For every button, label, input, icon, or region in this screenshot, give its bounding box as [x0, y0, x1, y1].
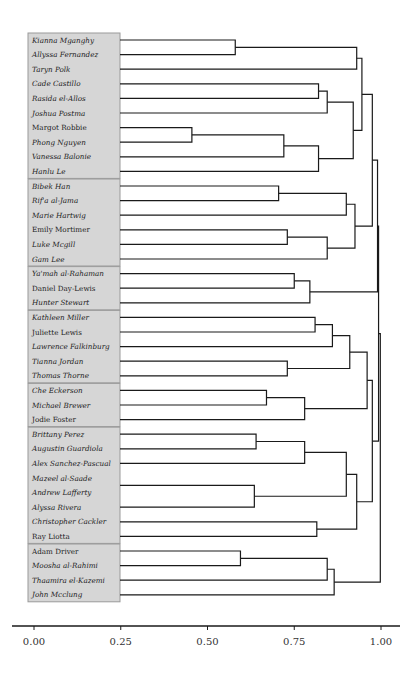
merge-link — [120, 317, 315, 332]
x-tick-label: 0.00 — [23, 636, 45, 647]
leaf-label: Vanessa Balonie — [32, 152, 91, 161]
merge-link — [120, 230, 287, 245]
leaf-label: Brittany Perez — [31, 430, 85, 439]
leaf-label: Moosha al-Rahimi — [31, 561, 98, 570]
leaf-label: Rasida el-Allos — [31, 94, 86, 103]
merge-link — [317, 474, 357, 529]
merge-link — [120, 522, 317, 537]
leaf-label: Thaamira el-Kazemi — [32, 576, 105, 585]
x-tick-label: 0.75 — [283, 636, 305, 647]
x-tick-label: 1.00 — [370, 636, 392, 647]
merge-link — [120, 274, 294, 289]
leaf-label: Phong Nguyen — [31, 138, 86, 147]
leaf-label: Hanlu Le — [31, 167, 65, 176]
merge-link — [120, 325, 332, 347]
merge-link — [120, 281, 310, 303]
merge-link — [120, 434, 256, 449]
leaf-label: Joshua Postma — [30, 109, 85, 118]
merge-link — [287, 336, 349, 369]
leaf-label: Cade Castillo — [32, 79, 81, 88]
leaf-label: Augustin Guardiola — [31, 444, 103, 453]
leaf-label: Ray Liotta — [32, 532, 70, 541]
leaf-label: Michael Brewer — [31, 401, 91, 410]
leaf-label: Christopher Cackler — [32, 517, 107, 526]
leaf-label: Rif'a al-Jama — [31, 196, 78, 205]
merge-link — [120, 146, 319, 172]
leaf-label: Andrew Lafferty — [31, 488, 92, 497]
merge-link — [357, 380, 373, 501]
leaf-label: Daniel Day-Lewis — [32, 284, 96, 293]
leaf-label: Mazeel al-Saade — [31, 474, 92, 483]
cluster-box-2 — [28, 179, 120, 266]
leaf-label: Allyssa Fernandez — [31, 50, 98, 59]
leaf-label: Margot Robbie — [32, 123, 87, 132]
merge-link — [120, 398, 305, 420]
x-tick-label: 0.25 — [110, 636, 132, 647]
leaf-label: Juliette Lewis — [31, 328, 82, 337]
leaf-label: Taryn Polk — [32, 65, 70, 74]
merge-link — [120, 551, 240, 566]
leaf-label: Kianna Mganghy — [31, 36, 95, 45]
leaf-label: Jodie Foster — [31, 415, 76, 424]
merge-link — [120, 186, 279, 201]
leaf-label: Luke Mcgill — [31, 240, 75, 249]
merge-link — [120, 135, 284, 157]
leaf-label: Alyssa Rivera — [31, 503, 81, 512]
leaf-label: Lawrence Falkinburg — [31, 342, 110, 351]
merge-link — [120, 361, 287, 376]
merge-link — [120, 485, 254, 507]
merge-link — [120, 128, 192, 143]
leaf-label: Kathleen Miller — [31, 313, 89, 322]
merge-link — [355, 94, 372, 226]
leaf-label: Hunter Stewart — [31, 298, 89, 307]
merge-link — [305, 352, 367, 409]
merge-link — [120, 558, 327, 580]
merge-link — [254, 452, 346, 496]
merge-link — [120, 237, 327, 259]
leaf-label: Thomas Thorne — [32, 371, 89, 380]
leaf-label: Alex Sanchez-Pascual — [31, 459, 111, 468]
dendrogram-chart: Kianna MganghyAllyssa FernandezTaryn Pol… — [0, 0, 418, 680]
leaf-label: Marie Hartwig — [31, 211, 86, 220]
merge-link — [327, 204, 355, 248]
leaf-label: Adam Driver — [31, 547, 79, 556]
merge-link — [334, 334, 380, 582]
dendrogram-links — [120, 40, 380, 595]
merge-link — [120, 390, 266, 405]
x-tick-label: 0.50 — [196, 636, 218, 647]
merge-link — [319, 102, 354, 159]
leaf-label: Emily Mortimer — [32, 225, 90, 234]
merge-link — [120, 91, 327, 113]
leaf-label: John Mcclung — [30, 590, 83, 599]
merge-link — [120, 569, 334, 595]
merge-link — [120, 47, 357, 69]
merge-link — [120, 193, 346, 215]
merge-link — [120, 442, 305, 464]
merge-link — [120, 40, 235, 55]
x-axis: 0.000.250.500.751.00 — [12, 626, 400, 647]
leaf-label: Che Eckerson — [32, 386, 83, 395]
leaf-label: Bibek Han — [31, 182, 71, 191]
merge-link — [120, 84, 319, 99]
leaf-label: Tianna Jordan — [32, 357, 84, 366]
x-axis-ticks: 0.000.250.500.751.00 — [23, 626, 392, 647]
leaf-label: Ya'mah al-Rahaman — [32, 269, 104, 278]
leaf-label: Gam Lee — [32, 255, 64, 264]
